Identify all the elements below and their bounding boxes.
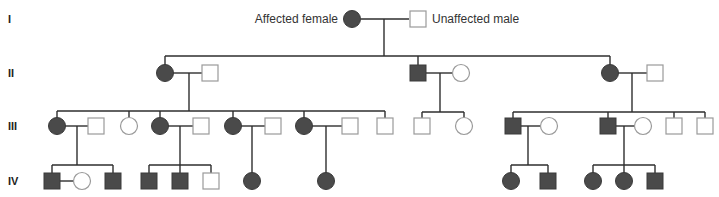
unaffected-male-iii-9	[342, 118, 358, 134]
unaffected-male-iii-17	[666, 118, 682, 134]
unaffected-male-iii-5	[193, 118, 209, 134]
affected-female-i-1	[344, 11, 361, 28]
unaffected-female-iii-16	[635, 118, 652, 135]
affected-female-iii-1	[49, 118, 66, 135]
affected-male-iv-4	[141, 173, 157, 189]
affected-female-iii-6	[225, 118, 242, 135]
individuals	[44, 11, 713, 190]
unaffected-male-ii-6	[647, 65, 663, 81]
affected-male-iv-3	[105, 173, 121, 189]
generation-label-ii: II	[8, 67, 14, 79]
affected-female-ii-5	[602, 65, 619, 82]
pedigree-chart: I II III IV Affected female Unaffected m…	[0, 0, 719, 197]
affected-female-ii-1	[157, 65, 174, 82]
unaffected-male-iii-18	[697, 118, 713, 134]
generation-labels: I II III IV	[8, 13, 19, 187]
affected-male-iv-10	[540, 173, 556, 189]
affected-male-iii-13	[505, 118, 521, 134]
affected-male-iv-13	[647, 173, 663, 189]
unaffected-male-i-2	[410, 11, 426, 27]
unaffected-female-ii-4	[453, 65, 470, 82]
generation-label-iii: III	[8, 120, 17, 132]
relationship-lines	[52, 19, 705, 181]
legend-affected-female: Affected female	[255, 12, 338, 26]
generation-label-i: I	[8, 13, 11, 25]
unaffected-male-iii-2	[88, 118, 104, 134]
affected-male-ii-3	[410, 65, 426, 81]
unaffected-female-iii-3	[121, 118, 138, 135]
affected-female-iv-8	[318, 173, 335, 190]
affected-male-iv-1	[44, 173, 60, 189]
affected-female-iii-8	[296, 118, 313, 135]
affected-male-iv-5	[172, 173, 188, 189]
affected-male-iii-15	[600, 118, 616, 134]
unaffected-female-iii-14	[541, 118, 558, 135]
affected-female-iv-9	[503, 173, 520, 190]
unaffected-male-iv-6	[203, 173, 219, 189]
unaffected-female-iv-2	[74, 173, 91, 190]
affected-female-iv-11	[585, 173, 602, 190]
affected-female-iii-4	[152, 118, 169, 135]
unaffected-male-iii-7	[265, 118, 281, 134]
unaffected-female-iii-12	[456, 118, 473, 135]
unaffected-male-ii-2	[202, 65, 218, 81]
legend-unaffected-male: Unaffected male	[432, 12, 519, 26]
generation-label-iv: IV	[8, 175, 19, 187]
unaffected-male-iii-11	[414, 118, 430, 134]
affected-female-iv-12	[616, 173, 633, 190]
unaffected-male-iii-10	[377, 118, 393, 134]
affected-female-iv-7	[244, 173, 261, 190]
